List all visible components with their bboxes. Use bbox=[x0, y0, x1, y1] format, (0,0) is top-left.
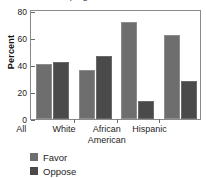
y-tick-mark bbox=[31, 120, 35, 121]
y-tick-mark bbox=[31, 12, 35, 13]
chart-legend: Favor Oppose bbox=[30, 151, 76, 178]
plot-area: 020406080 bbox=[30, 10, 201, 120]
x-category-line: White bbox=[53, 124, 76, 134]
y-tick-label: 60 bbox=[7, 35, 27, 43]
x-tick-mark bbox=[117, 119, 118, 123]
y-axis-label: Percent bbox=[6, 24, 16, 80]
y-tick-label: 80 bbox=[7, 8, 27, 16]
x-category-line: Hispanic bbox=[132, 124, 167, 134]
bar-chart-figure: Favor programs for minorities Percent 02… bbox=[0, 0, 206, 178]
y-tick-mark bbox=[31, 39, 35, 40]
bar-hispanic-oppose bbox=[181, 81, 197, 119]
bar-african-american-oppose bbox=[138, 101, 154, 119]
legend-label-oppose: Oppose bbox=[43, 167, 76, 176]
bar-all-favor bbox=[36, 64, 52, 119]
bar-african-american-favor bbox=[121, 22, 137, 119]
chart-title: Favor programs for minorities bbox=[0, 0, 206, 1]
bar-all-oppose bbox=[53, 62, 69, 119]
x-category-label: Hispanic bbox=[120, 124, 180, 135]
bar-hispanic-favor bbox=[164, 35, 180, 119]
legend-item-oppose: Oppose bbox=[30, 165, 76, 177]
y-tick-label: 0 bbox=[7, 116, 27, 124]
y-tick-mark bbox=[31, 93, 35, 94]
x-tick-mark bbox=[159, 119, 160, 123]
bar-white-favor bbox=[79, 70, 95, 119]
x-category-line: All bbox=[16, 124, 26, 134]
bar-white-oppose bbox=[96, 56, 112, 119]
legend-item-favor: Favor bbox=[30, 151, 76, 163]
x-category-line: African bbox=[93, 124, 121, 134]
legend-swatch-oppose-icon bbox=[30, 167, 38, 175]
y-tick-label: 40 bbox=[7, 62, 27, 70]
legend-label-favor: Favor bbox=[43, 153, 67, 162]
x-tick-mark bbox=[74, 119, 75, 123]
legend-swatch-favor-icon bbox=[30, 153, 38, 161]
y-tick-mark bbox=[31, 66, 35, 67]
x-category-line: American bbox=[77, 135, 137, 146]
y-tick-label: 20 bbox=[7, 89, 27, 97]
